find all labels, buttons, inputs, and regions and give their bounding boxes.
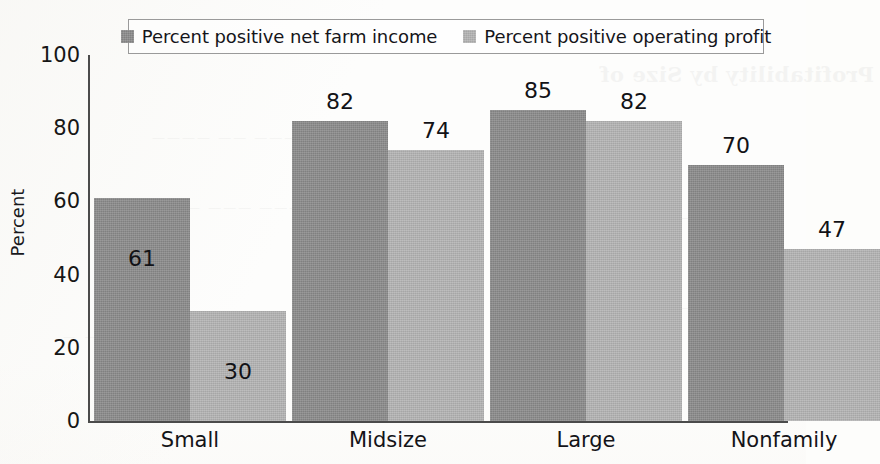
x-axis-tick-midsize: Midsize [349,428,427,452]
x-axis-tick-labels: Small Midsize Large Nonfamily [88,0,788,464]
x-axis-tick-small: Small [161,428,219,452]
bar-value-label: 47 [818,217,846,242]
y-axis-title: Percent [7,178,28,268]
y-axis-tick: 0 [18,409,80,433]
x-axis-tick-nonfamily: Nonfamily [731,428,838,452]
y-axis-tick: 20 [18,336,80,360]
x-axis-tick-large: Large [556,428,615,452]
y-axis-tick: 100 [18,43,80,67]
bar-nonfamily-operating-profit[interactable] [784,249,880,421]
y-axis-tick: 80 [18,116,80,140]
